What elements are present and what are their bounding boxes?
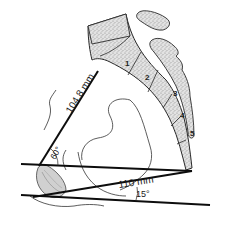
pelvic-measurement-diagram: 1 2 3 4 5 104.8 mm 60° 110 [0,0,225,227]
conjugate-length-label: 104.8 mm [63,72,96,116]
outlet-length-label: 110 mm [118,174,155,190]
measurement-labels: 104.8 mm 60° 110 mm 15° [48,72,154,199]
vertebra-label-3: 3 [173,89,178,98]
vertebra-label-1: 1 [125,59,130,68]
colon-segment [137,11,170,30]
vertebra-label-2: 2 [145,73,150,82]
vertebra-label-4: 4 [180,111,185,120]
vertebra-label-5: 5 [190,129,195,138]
angle-15-label: 15° [136,189,150,199]
lower-reference-line [21,195,210,205]
